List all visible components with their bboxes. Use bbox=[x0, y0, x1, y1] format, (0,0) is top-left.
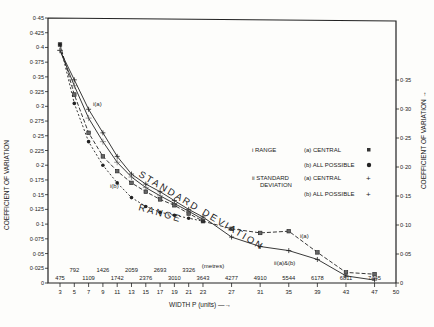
y2-tick-label: 0 bbox=[400, 280, 403, 286]
axes: 00·0250·050·0750·10·1250·150·1750·20·225… bbox=[30, 15, 412, 295]
y-tick-label: 0·325 bbox=[30, 89, 44, 95]
y2-tick-label: 0·35 bbox=[400, 77, 411, 83]
x-axis-label: WIDTH P (units) —→ bbox=[169, 301, 231, 309]
y-tick-label: 0·175 bbox=[30, 177, 44, 183]
y-tick-label: 0·275 bbox=[30, 118, 44, 124]
y-tick-label: 0·075 bbox=[30, 236, 44, 242]
x-metre-label: 2693 bbox=[154, 267, 167, 273]
x-tick-label: 50 bbox=[393, 289, 399, 295]
x-tick-label: 9 bbox=[101, 289, 104, 295]
y2-tick-label: 0·30 bbox=[400, 106, 411, 112]
axis-frame bbox=[48, 18, 396, 283]
x-metre-label: 1109 bbox=[82, 275, 94, 281]
x-metre-label: 2376 bbox=[139, 275, 152, 281]
x-metre-label: 475 bbox=[55, 275, 65, 281]
legend-sd-central: (a) CENTRAL bbox=[304, 175, 342, 181]
x-tick-label: 13 bbox=[128, 289, 134, 295]
metres-label: (metres) bbox=[202, 263, 224, 269]
y-axis-label: COEFFICIENT OF VARIATION bbox=[3, 140, 10, 230]
x-tick-label: 31 bbox=[257, 289, 263, 295]
x-metre-label: 6178 bbox=[311, 275, 324, 281]
y2-axis-label: COEFFICIENT OF VARIATION → bbox=[420, 91, 427, 189]
x-tick-label: 5 bbox=[73, 289, 76, 295]
legend-dot-marker bbox=[367, 163, 371, 167]
y-tick-label: 0·45 bbox=[33, 15, 44, 21]
x-tick-label: 47 bbox=[371, 289, 377, 295]
legend-sd-label-2: DEVIATION bbox=[260, 182, 292, 188]
y-tick-label: 0 bbox=[41, 280, 44, 286]
x-metre-label: 4910 bbox=[254, 275, 267, 281]
x-metre-label: 5544 bbox=[282, 275, 296, 281]
legend-range-central: (a) CENTRAL bbox=[304, 147, 342, 153]
chart: 00·0250·050·0750·10·1250·150·1750·20·225… bbox=[0, 0, 434, 327]
x-tick-label: 3 bbox=[58, 289, 61, 295]
y-tick-label: 0·375 bbox=[30, 59, 44, 65]
x-tick-label: 15 bbox=[143, 289, 149, 295]
y-tick-label: 0·2 bbox=[36, 162, 44, 168]
y-tick-label: 0·225 bbox=[30, 148, 44, 154]
y-tick-label: 0·3 bbox=[36, 103, 44, 109]
y2-tick-label: 0·15 bbox=[400, 193, 411, 199]
legend-cross-marker: + bbox=[366, 190, 371, 199]
y-tick-label: 0·1 bbox=[36, 221, 44, 227]
annotation-ia-right: i(a) bbox=[300, 233, 309, 239]
x-metre-label: 3643 bbox=[197, 275, 210, 281]
legend-range-label: i RANGE bbox=[252, 147, 276, 153]
y-tick-label: 0·15 bbox=[33, 192, 44, 198]
x-tick-label: 19 bbox=[171, 289, 177, 295]
legend-plus-marker: + bbox=[366, 174, 371, 183]
x-tick-label: 35 bbox=[286, 289, 292, 295]
x-metre-label: 4277 bbox=[225, 275, 238, 281]
y-tick-label: 0·35 bbox=[33, 74, 44, 80]
x-metre-label: 1426 bbox=[96, 267, 109, 273]
x-metre-label: 792 bbox=[69, 267, 79, 273]
legend: i RANGE (a) CENTRAL (b) ALL POSSIBLE ii … bbox=[252, 147, 371, 199]
y2-tick-label: 0·05 bbox=[400, 251, 411, 257]
legend-sd-label-1: ii STANDARD bbox=[252, 175, 290, 181]
x-tick-label: 11 bbox=[114, 289, 120, 295]
y-tick-label: 0·4 bbox=[36, 44, 44, 50]
annotation-iiab: ii(a)&(b) bbox=[274, 260, 295, 266]
x-metre-label: 1742 bbox=[111, 275, 124, 281]
legend-range-all: (b) ALL POSSIBLE bbox=[304, 162, 354, 168]
legend-sd-all: (b) ALL POSSIBLE bbox=[304, 191, 354, 197]
x-tick-label: 27 bbox=[228, 289, 234, 295]
x-tick-label: 39 bbox=[314, 289, 320, 295]
annotation-ib: i(b) bbox=[110, 183, 119, 189]
series-line bbox=[60, 45, 375, 275]
y2-tick-label: 0·25 bbox=[400, 135, 411, 141]
y2-tick-label: 0·10 bbox=[400, 222, 411, 228]
x-metre-label: 2059 bbox=[125, 267, 138, 273]
x-metre-label: 3010 bbox=[168, 275, 181, 281]
annotation-ia-top: i(a) bbox=[93, 101, 102, 107]
y-tick-label: 0·025 bbox=[30, 265, 44, 271]
x-tick-label: 43 bbox=[343, 289, 349, 295]
x-tick-label: 17 bbox=[157, 289, 163, 295]
y-tick-label: 0·125 bbox=[30, 206, 44, 212]
y-tick-label: 0·425 bbox=[30, 30, 44, 36]
x-tick-label: 7 bbox=[87, 289, 90, 295]
y-tick-label: 0·05 bbox=[33, 251, 44, 257]
x-tick-label: 23 bbox=[200, 289, 206, 295]
x-metre-label: 3326 bbox=[182, 267, 195, 273]
legend-square-marker bbox=[367, 148, 371, 152]
y-tick-label: 0·25 bbox=[33, 133, 44, 139]
y2-tick-label: 0·20 bbox=[400, 164, 411, 170]
x-tick-label: 21 bbox=[185, 289, 191, 295]
